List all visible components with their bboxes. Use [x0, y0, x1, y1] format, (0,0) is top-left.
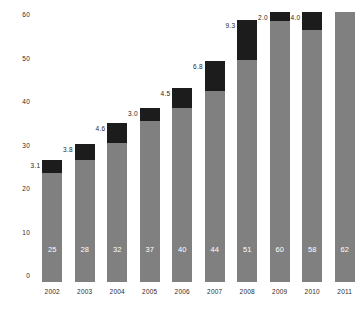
bar-stack: 58 [302, 12, 322, 282]
bar-value-label-top: 3.0 [128, 110, 138, 117]
bar-segment-top [270, 12, 290, 21]
bar-value-label-top: 4.5 [161, 90, 171, 97]
bar-group: 40 [172, 88, 192, 282]
y-axis-tick-label: 60 [22, 11, 30, 18]
bar-segment-top [237, 20, 257, 60]
bar-stack: 32 [107, 123, 127, 282]
bar-stack: 60 [270, 12, 290, 282]
bar-group: 58 [302, 12, 322, 282]
bar-segment-top [172, 88, 192, 108]
bar-value-label-base: 37 [140, 245, 160, 254]
bar-stack: 28 [75, 144, 95, 282]
bar-group: 28 [75, 144, 95, 282]
bar-value-label-top: 3.8 [63, 146, 73, 153]
bar-segment-base [107, 143, 127, 282]
y-axis-tick-label: 40 [22, 98, 30, 105]
bar-stack: 37 [140, 108, 160, 282]
bar-group: 37 [140, 108, 160, 282]
x-axis-tick-label: 2003 [69, 288, 102, 295]
bar-stack: 51 [237, 20, 257, 282]
x-axis-tick-label: 2010 [296, 288, 329, 295]
bar-segment-top [75, 144, 95, 161]
x-axis-tick-label: 2002 [36, 288, 69, 295]
bar-segment-base [75, 160, 95, 282]
bar-group: 62 [335, 12, 355, 282]
bar-group: 60 [270, 12, 290, 282]
bar-segment-base [335, 12, 355, 282]
x-axis-tick-label: 2005 [134, 288, 167, 295]
bar-segment-top [302, 12, 322, 29]
plot-area: 0102030405060 253.1283.8324.6373.0404.54… [36, 8, 361, 282]
bar-value-label-base: 40 [172, 245, 192, 254]
bar-group: 25 [42, 160, 62, 282]
bar-segment-base [42, 173, 62, 282]
bar-stack: 40 [172, 88, 192, 282]
bar-value-label-base: 25 [42, 245, 62, 254]
bar-value-label-base: 58 [302, 245, 322, 254]
x-axis-tick-label: 2007 [199, 288, 232, 295]
bar-segment-top [205, 61, 225, 91]
bar-value-label-top: 2.0 [258, 14, 268, 21]
y-axis-tick-label: 10 [22, 228, 30, 235]
bar-value-label-base: 32 [107, 245, 127, 254]
bar-value-label-top: 4.6 [96, 125, 106, 132]
bar-group: 44 [205, 61, 225, 282]
x-axis-tick-label: 2004 [101, 288, 134, 295]
bar-stack: 62 [335, 12, 355, 282]
bar-chart: 0102030405060 253.1283.8324.6373.0404.54… [0, 0, 361, 315]
y-axis-tick-label: 50 [22, 54, 30, 61]
bar-segment-base [140, 121, 160, 282]
x-axis-tick-label: 2006 [166, 288, 199, 295]
bar-segment-base [172, 108, 192, 282]
y-axis-tick-label: 20 [22, 185, 30, 192]
bar-value-label-base: 62 [335, 245, 355, 254]
bar-stack: 44 [205, 61, 225, 282]
x-axis-tick-label: 2009 [264, 288, 297, 295]
bar-group: 32 [107, 123, 127, 282]
x-axis-ticks: 2002200320042005200620072008200920102011 [36, 288, 361, 308]
bar-value-label-top: 9.3 [226, 22, 236, 29]
y-axis-tick-label: 30 [22, 141, 30, 148]
bar-segment-top [42, 160, 62, 173]
bar-segment-top [107, 123, 127, 143]
y-axis-tick-label: 0 [26, 272, 30, 279]
x-axis-tick-label: 2011 [329, 288, 361, 295]
bar-value-label-base: 28 [75, 245, 95, 254]
bar-value-label-top: 3.1 [31, 162, 41, 169]
bar-segment-top [140, 108, 160, 121]
x-axis-tick-label: 2008 [231, 288, 264, 295]
bar-segment-base [270, 21, 290, 282]
bar-value-label-top: 4.0 [291, 14, 301, 21]
bar-stack: 25 [42, 160, 62, 282]
bar-group: 51 [237, 20, 257, 282]
bar-value-label-base: 44 [205, 245, 225, 254]
bar-value-label-base: 60 [270, 245, 290, 254]
bar-value-label-base: 51 [237, 245, 257, 254]
bar-value-label-top: 6.8 [193, 63, 203, 70]
